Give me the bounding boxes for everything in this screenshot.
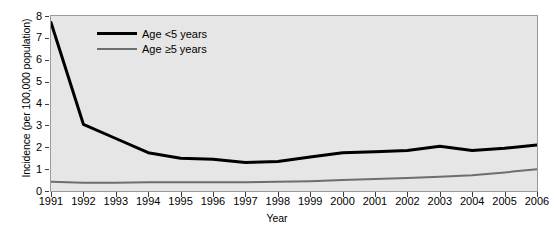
y-tick-label: 6 (12, 54, 42, 65)
legend-label: Age ≥5 years (142, 43, 207, 55)
legend-line-icon (97, 32, 137, 35)
y-tick-label: 7 (12, 32, 42, 43)
y-tick-label: 8 (12, 11, 42, 22)
y-tick-label: 0 (12, 186, 42, 197)
y-tick-label: 3 (12, 120, 42, 131)
legend-label: Age <5 years (142, 28, 207, 40)
incidence-line-chart: Incidence (per 100,000 population) 01234… (0, 0, 554, 230)
y-tick-mark (45, 169, 49, 170)
chart-legend: Age <5 yearsAge ≥5 years (97, 26, 207, 56)
y-tick-mark (45, 16, 49, 17)
y-tick-mark (45, 191, 49, 192)
y-tick-mark (45, 38, 49, 39)
x-tick-label: 2006 (517, 196, 554, 207)
y-tick-mark (45, 125, 49, 126)
legend-item: Age <5 years (97, 26, 207, 41)
y-tick-mark (45, 60, 49, 61)
y-tick-label: 1 (12, 164, 42, 175)
legend-item: Age ≥5 years (97, 41, 207, 56)
y-tick-label: 5 (12, 76, 42, 87)
y-tick-label: 4 (12, 98, 42, 109)
series-line-over5 (51, 169, 537, 183)
y-tick-mark (45, 147, 49, 148)
legend-line-icon (97, 48, 137, 50)
y-tick-mark (45, 82, 49, 83)
y-tick-mark (45, 104, 49, 105)
y-tick-label: 2 (12, 142, 42, 153)
x-axis-title: Year (0, 212, 554, 224)
